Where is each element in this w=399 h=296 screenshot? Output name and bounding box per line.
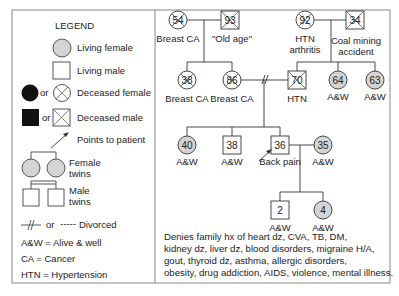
- legend-label-living-male: Living male: [77, 65, 125, 76]
- legend-label-male-twins-2: twins: [69, 196, 91, 207]
- person-mother: 86 Breast CA: [210, 71, 254, 104]
- legend-label-points-to-patient: Points to patient: [77, 134, 145, 145]
- legend-label-deceased-male: Deceased male: [77, 112, 143, 123]
- svg-text:63: 63: [369, 75, 381, 86]
- svg-text:Coal mining: Coal mining: [331, 35, 381, 46]
- pedigree-diagram: LEGEND Living female Living male or Dece…: [0, 0, 399, 296]
- legend-dashes: -----: [60, 218, 76, 229]
- person-paternal-grandfather: 34 Coal mining accident: [331, 11, 381, 57]
- female-twins-icon: [22, 152, 65, 177]
- svg-text:36: 36: [274, 140, 286, 151]
- family-history-notes: Denies family hx of heart dz, CVA, TB, D…: [164, 231, 393, 278]
- person-maternal-grandmother: 54 Breast CA: [156, 11, 200, 44]
- svg-text:HTN: HTN: [287, 93, 307, 104]
- person-aunt: 38 Breast CA: [165, 71, 209, 104]
- svg-text:54: 54: [172, 15, 184, 26]
- person-maternal-grandfather: 93 "Old age": [212, 11, 252, 44]
- person-patient: 36 Back pain: [259, 136, 301, 167]
- legend-title: LEGEND: [55, 20, 94, 31]
- person-spouse: 35 A&W: [312, 136, 334, 167]
- svg-text:A&W: A&W: [327, 91, 349, 102]
- deceased-male-crossed-icon: [53, 109, 70, 126]
- svg-text:93: 93: [224, 15, 236, 26]
- abbrev-htn: HTN = Hypertension: [21, 269, 107, 280]
- deceased-female-crossed-icon: [54, 85, 71, 102]
- svg-text:38: 38: [181, 75, 193, 86]
- svg-text:Breast CA: Breast CA: [156, 33, 200, 44]
- svg-text:64: 64: [332, 75, 344, 86]
- deceased-male-filled-icon: [22, 109, 39, 126]
- person-brother: 38 A&W: [221, 136, 243, 167]
- svg-text:2: 2: [277, 205, 283, 216]
- svg-text:gout, thyroid dz, asthma, alle: gout, thyroid dz, asthma, allergic disor…: [164, 255, 347, 266]
- person-paternal-aunt-1: 64 A&W: [327, 71, 349, 102]
- svg-text:86: 86: [226, 75, 238, 86]
- svg-text:Breast CA: Breast CA: [210, 93, 254, 104]
- person-paternal-aunt-2: 63 A&W: [364, 71, 386, 102]
- legend-or-2: or: [42, 112, 50, 123]
- legend-label-living-female: Living female: [77, 42, 133, 53]
- legend-or-3: or: [46, 219, 54, 230]
- svg-text:arthritis: arthritis: [289, 44, 320, 55]
- svg-text:Breast CA: Breast CA: [165, 93, 209, 104]
- svg-text:A&W: A&W: [221, 156, 243, 167]
- living-male-icon: [53, 62, 70, 79]
- svg-text:accident: accident: [338, 46, 374, 57]
- svg-text:kidney dz, liver dz, blood di: kidney dz, liver dz, blood disorders, mi…: [164, 243, 375, 254]
- svg-text:38: 38: [226, 140, 238, 151]
- svg-text:A&W: A&W: [176, 156, 198, 167]
- deceased-female-filled-icon: [22, 85, 39, 102]
- svg-text:obesity, drug addiction, AIDS,: obesity, drug addiction, AIDS, violence,…: [164, 267, 393, 278]
- legend-label-divorced: Divorced: [79, 219, 117, 230]
- svg-text:4: 4: [320, 205, 326, 216]
- male-twins-icon: [23, 181, 64, 206]
- person-daughter: 4 A&W: [312, 201, 334, 233]
- svg-text:HTN: HTN: [295, 33, 315, 44]
- person-father: 70 HTN: [287, 71, 307, 104]
- svg-text:70: 70: [291, 75, 303, 86]
- svg-text:92: 92: [299, 15, 311, 26]
- svg-text:34: 34: [349, 15, 361, 26]
- svg-text:Denies family hx of heart dz,: Denies family hx of heart dz, CVA, TB, D…: [164, 231, 347, 242]
- legend-label-male-twins-1: Male: [69, 185, 90, 196]
- legend-label-deceased-female: Deceased female: [77, 87, 151, 98]
- legend-or-1: or: [40, 87, 48, 98]
- living-female-icon: [53, 39, 71, 57]
- abbrev-aw: A&W = Alive & well: [21, 237, 102, 248]
- person-paternal-grandmother: 92 HTN arthritis: [289, 11, 320, 55]
- svg-text:40: 40: [181, 140, 193, 151]
- person-sister: 40 A&W: [176, 136, 198, 167]
- svg-text:A&W: A&W: [312, 156, 334, 167]
- divorced-icon: [21, 220, 41, 230]
- person-son: 2 A&W: [269, 201, 291, 233]
- svg-text:A&W: A&W: [364, 91, 386, 102]
- patient-arrow-icon: [51, 132, 69, 148]
- svg-text:Back pain: Back pain: [259, 156, 301, 167]
- svg-text:35: 35: [317, 140, 329, 151]
- legend-label-female-twins-2: twins: [69, 168, 91, 179]
- legend-label-female-twins-1: Female: [69, 157, 101, 168]
- svg-text:"Old age": "Old age": [212, 33, 252, 44]
- abbrev-ca: CA = Cancer: [21, 253, 75, 264]
- legend: LEGEND Living female Living male or Dece…: [21, 20, 151, 280]
